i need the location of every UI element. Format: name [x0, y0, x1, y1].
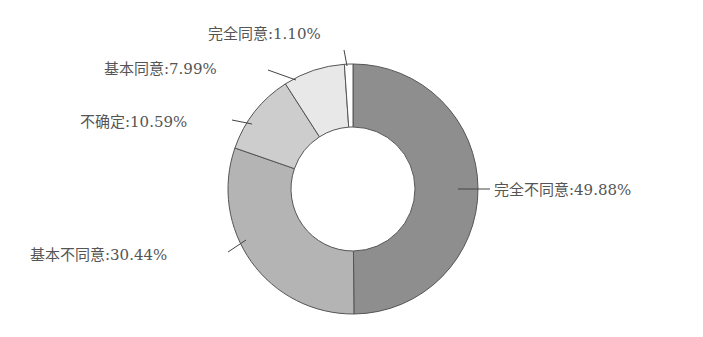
donut-chart: 完全不同意:49.88% 基本不同意:30.44% 不确定:10.59% 基本同… [0, 0, 703, 337]
slice-disagree [228, 148, 354, 314]
leader-line [344, 50, 347, 66]
donut-slices [228, 64, 478, 314]
label-strongly-disagree: 完全不同意:49.88% [494, 181, 631, 199]
label-strongly-agree: 完全同意:1.10% [208, 25, 321, 43]
label-agree: 基本同意:7.99% [104, 60, 217, 78]
leader-line [268, 70, 296, 80]
label-disagree: 基本不同意:30.44% [30, 246, 167, 264]
label-uncertain: 不确定:10.59% [80, 113, 187, 131]
